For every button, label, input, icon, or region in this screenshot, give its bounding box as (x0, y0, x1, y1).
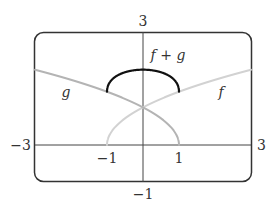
x-max-label: 3 (257, 137, 266, 153)
x-tick-neg1-label: −1 (97, 150, 118, 166)
graph-plot: 3 −1 −3 3 −1 1 g f f + g (0, 0, 270, 205)
x-min-label: −3 (10, 137, 31, 153)
f-curve (107, 70, 251, 145)
y-min-label: −1 (133, 186, 154, 202)
g-curve (35, 70, 179, 145)
f-curve-label: f (217, 84, 226, 100)
f-plus-g-curve-label: f + g (150, 47, 186, 63)
g-curve-label: g (62, 84, 71, 100)
y-max-label: 3 (139, 13, 148, 29)
x-tick-1-label: 1 (175, 150, 184, 166)
